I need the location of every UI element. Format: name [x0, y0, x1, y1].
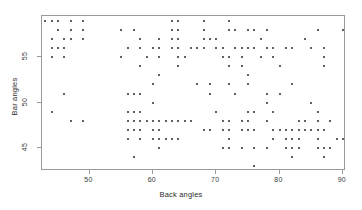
x-axis-tick-label: 80	[267, 176, 291, 183]
data-point	[139, 38, 141, 40]
data-point	[51, 38, 53, 40]
data-point	[203, 47, 205, 49]
data-point	[291, 129, 293, 131]
data-point	[82, 29, 84, 31]
data-point	[139, 129, 141, 131]
data-point	[127, 120, 129, 122]
data-point	[342, 138, 344, 140]
data-point	[222, 47, 224, 49]
data-point	[171, 38, 173, 40]
data-point	[234, 93, 236, 95]
data-point	[291, 47, 293, 49]
data-point	[228, 147, 230, 149]
data-point	[190, 120, 192, 122]
scatter-plot: Back angles Bar angles 5060708090455055	[0, 0, 362, 210]
data-point	[298, 120, 300, 122]
data-point	[127, 138, 129, 140]
data-point	[184, 120, 186, 122]
data-point	[203, 38, 205, 40]
data-point	[222, 147, 224, 149]
data-point	[317, 29, 319, 31]
data-point	[51, 56, 53, 58]
data-point	[133, 156, 135, 158]
data-point	[247, 83, 249, 85]
data-point	[317, 120, 319, 122]
data-point	[323, 65, 325, 67]
data-point	[247, 129, 249, 131]
data-point	[215, 111, 217, 113]
data-point	[57, 29, 59, 31]
data-point	[285, 147, 287, 149]
data-point	[310, 129, 312, 131]
data-point	[228, 56, 230, 58]
data-point	[158, 47, 160, 49]
data-point	[228, 65, 230, 67]
data-point	[139, 93, 141, 95]
data-point	[253, 129, 255, 131]
x-axis-tick-label: 90	[330, 176, 354, 183]
data-point	[228, 83, 230, 85]
x-axis-tick	[215, 170, 216, 174]
data-point	[266, 102, 268, 104]
data-point	[139, 138, 141, 140]
data-point	[253, 111, 255, 113]
data-point	[291, 138, 293, 140]
data-point	[190, 47, 192, 49]
data-point	[215, 47, 217, 49]
data-point	[152, 47, 154, 49]
data-point	[120, 56, 122, 58]
x-axis-tick-label: 60	[140, 176, 164, 183]
data-point	[241, 120, 243, 122]
data-point	[57, 47, 59, 49]
data-point	[127, 129, 129, 131]
data-point	[247, 111, 249, 113]
data-point	[241, 147, 243, 149]
data-point	[298, 147, 300, 149]
data-point	[63, 47, 65, 49]
data-point	[247, 74, 249, 76]
data-point	[304, 129, 306, 131]
data-point	[279, 93, 281, 95]
data-point	[133, 129, 135, 131]
data-point	[177, 138, 179, 140]
data-point	[171, 20, 173, 22]
data-point	[272, 111, 274, 113]
data-point	[323, 56, 325, 58]
data-point	[158, 74, 160, 76]
data-point	[234, 29, 236, 31]
data-point	[82, 120, 84, 122]
data-point	[323, 156, 325, 158]
data-point	[291, 156, 293, 158]
data-point	[279, 129, 281, 131]
data-point	[304, 120, 306, 122]
data-point	[272, 138, 274, 140]
data-point	[260, 38, 262, 40]
data-point	[228, 138, 230, 140]
data-point	[253, 29, 255, 31]
data-point	[127, 47, 129, 49]
data-point	[171, 138, 173, 140]
data-point	[171, 47, 173, 49]
data-point	[285, 47, 287, 49]
data-point	[139, 120, 141, 122]
data-point	[272, 56, 274, 58]
x-axis-tick-label: 50	[77, 176, 101, 183]
data-point	[177, 65, 179, 67]
data-point	[209, 38, 211, 40]
data-point	[196, 83, 198, 85]
data-point	[253, 147, 255, 149]
data-point	[304, 38, 306, 40]
data-point	[139, 111, 141, 113]
data-point	[152, 102, 154, 104]
data-point	[266, 120, 268, 122]
x-axis-tick	[152, 170, 153, 174]
y-axis-tick-label: 45	[21, 137, 28, 157]
data-point	[209, 129, 211, 131]
data-point	[222, 129, 224, 131]
data-point	[260, 56, 262, 58]
data-point	[177, 56, 179, 58]
data-point	[317, 111, 319, 113]
x-axis-tick-label: 70	[203, 176, 227, 183]
data-point	[329, 120, 331, 122]
data-point	[266, 147, 268, 149]
